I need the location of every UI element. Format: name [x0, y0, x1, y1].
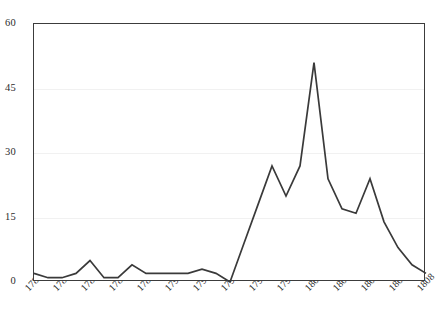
series-polyline — [34, 63, 426, 282]
plot-area — [33, 23, 425, 281]
y-tick-label-0: 0 — [0, 276, 16, 287]
y-tick-label-45: 45 — [0, 83, 16, 94]
data-series-line — [34, 24, 426, 282]
y-tick-label-30: 30 — [0, 147, 16, 158]
y-tick-label-15: 15 — [0, 212, 16, 223]
line-chart: 015304560 178017821784178617881790179217… — [0, 0, 445, 328]
y-tick-label-60: 60 — [0, 18, 16, 29]
